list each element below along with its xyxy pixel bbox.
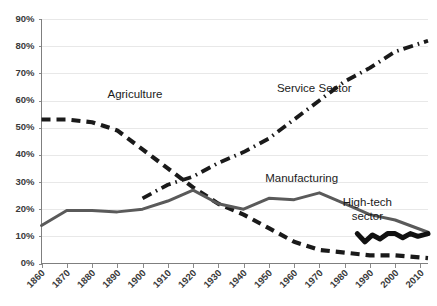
sector-employment-line-chart: 0%10%20%30%40%50%60%70%80%90% 1860187018…: [0, 0, 437, 306]
chart-container: 0%10%20%30%40%50%60%70%80%90% 1860187018…: [0, 0, 437, 306]
y-tick-label-40%: 40%: [15, 148, 35, 159]
y-tick-label-20%: 20%: [15, 203, 35, 214]
series-label-service-sector: Service Sector: [277, 82, 352, 94]
series-label-agriculture: Agriculture: [107, 88, 162, 100]
y-tick-label-70%: 70%: [15, 67, 35, 78]
y-tick-label-10%: 10%: [15, 230, 35, 241]
series-label-sector: sector: [352, 210, 383, 222]
y-tick-label-0%: 0%: [21, 257, 35, 268]
chart-background: [0, 0, 437, 306]
y-tick-label-30%: 30%: [15, 176, 35, 187]
y-tick-label-80%: 80%: [15, 40, 35, 51]
y-tick-label-60%: 60%: [15, 94, 35, 105]
y-tick-label-90%: 90%: [15, 13, 35, 24]
series-label-high-tech: High-tech: [343, 196, 392, 208]
y-tick-label-50%: 50%: [15, 121, 35, 132]
series-label-manufacturing: Manufacturing: [265, 172, 338, 184]
